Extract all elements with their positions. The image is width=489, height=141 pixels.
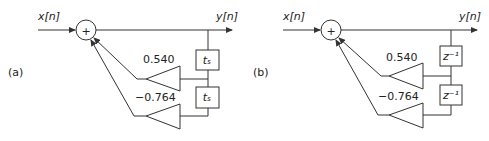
diagram-a: (a) x[n] y[n] + tₛ tₛ 0.540 −0.764 <box>8 10 238 129</box>
gain-label: −0.764 <box>135 91 176 104</box>
adder-symbol: + <box>81 25 90 38</box>
feedback-line <box>336 40 389 115</box>
tap-line <box>423 105 451 115</box>
delay-label: tₛ <box>203 91 211 104</box>
gain-triangle <box>146 66 180 91</box>
output-label: y[n] <box>215 10 238 23</box>
delay-label: z⁻¹ <box>442 89 459 102</box>
feedback-line <box>339 38 389 76</box>
gain-label: −0.764 <box>378 90 419 103</box>
tap-line <box>180 108 208 116</box>
adder-symbol: + <box>326 25 335 38</box>
delay-label: tₛ <box>203 54 211 67</box>
diagram-b: (b) x[n] y[n] + z⁻¹ z⁻¹ 0.540 −0.764 <box>253 10 481 128</box>
panel-label: (b) <box>253 66 269 79</box>
gain-label: 0.540 <box>143 53 175 66</box>
gain-triangle <box>146 104 180 129</box>
delay-label: z⁻¹ <box>442 50 459 63</box>
input-label: x[n] <box>37 10 60 23</box>
gain-label: 0.540 <box>386 51 418 64</box>
gain-triangle <box>389 103 423 128</box>
input-label: x[n] <box>282 10 305 23</box>
gain-triangle <box>389 63 423 89</box>
feedback-line <box>91 40 146 116</box>
output-label: y[n] <box>458 10 481 23</box>
filter-diagrams: (a) x[n] y[n] + tₛ tₛ 0.540 −0.764 (b) x… <box>0 0 489 141</box>
panel-label: (a) <box>8 66 23 79</box>
